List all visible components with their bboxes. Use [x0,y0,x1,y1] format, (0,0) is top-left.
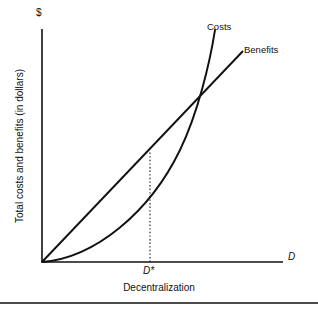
benefits-line [42,51,243,262]
y-axis-currency-symbol: $ [36,8,42,18]
series-label-benefits: Benefits [244,45,278,55]
figure-container: $ D Costs Benefits D* Decentralization T… [0,0,318,313]
series-label-costs: Costs [207,22,231,32]
x-axis-title: Decentralization [0,283,318,293]
x-axis-variable-symbol: D [288,252,295,262]
y-axis-title: Total costs and benefits (in dollars) [14,56,25,236]
costs-curve [42,30,215,262]
x-axis-tick-label-optimum: D* [143,266,154,276]
